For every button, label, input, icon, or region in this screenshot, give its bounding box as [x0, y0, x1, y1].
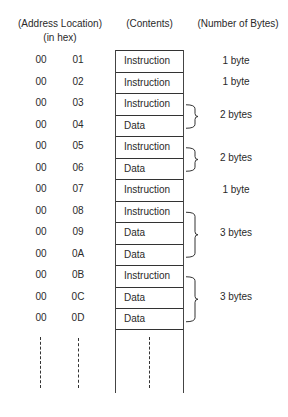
memory-cell: Instruction [116, 136, 183, 158]
address-low-byte: 07 [63, 183, 93, 194]
address-high-byte: 00 [26, 140, 56, 151]
memory-cell: Instruction [116, 265, 183, 287]
memory-cell: Data [116, 158, 183, 180]
memory-cell: Data [116, 115, 183, 137]
contents-continuation-line [149, 337, 150, 388]
byte-count-label: 1 byte [196, 55, 276, 66]
address-low-byte: 0A [63, 248, 93, 259]
address-high-byte: 00 [26, 119, 56, 130]
byte-count-label: 2 bytes [196, 152, 276, 163]
address-high-byte: 00 [26, 226, 56, 237]
address-high-byte: 00 [26, 248, 56, 259]
byte-count-label: 1 byte [196, 184, 276, 195]
memory-cell: Instruction [116, 72, 183, 94]
memory-cell: Data [116, 222, 183, 244]
address-low-byte: 02 [63, 76, 93, 87]
memory-cell: Data [116, 308, 183, 330]
address-header: (Address Location) [10, 18, 110, 29]
memory-cell: Instruction [116, 179, 183, 201]
memory-cell: Instruction [116, 201, 183, 223]
byte-count-label: 3 bytes [196, 227, 276, 238]
address-high-byte: 00 [26, 76, 56, 87]
address-low-byte: 05 [63, 140, 93, 151]
address-high-byte: 00 [26, 162, 56, 173]
byte-count-label: 2 bytes [196, 109, 276, 120]
address-high-byte: 00 [26, 97, 56, 108]
address-low-byte: 04 [63, 119, 93, 130]
address-high-byte: 00 [26, 291, 56, 302]
address-low-byte: 0B [63, 269, 93, 280]
address-low-byte: 01 [63, 54, 93, 65]
contents-header: (Contents) [115, 18, 184, 29]
address-high-byte: 00 [26, 54, 56, 65]
byte-count-label: 1 byte [196, 76, 276, 87]
address-high-byte: 00 [26, 312, 56, 323]
address-high-byte: 00 [26, 269, 56, 280]
address-low-byte: 09 [63, 226, 93, 237]
address-low-byte: 06 [63, 162, 93, 173]
address-low-byte: 08 [63, 205, 93, 216]
address-high-byte: 00 [26, 183, 56, 194]
address-high-byte: 00 [26, 205, 56, 216]
memory-cell: Instruction [116, 50, 183, 72]
address-lo-continuation-line [78, 338, 79, 388]
address-subheader: (in hex) [10, 32, 110, 43]
address-low-byte: 03 [63, 97, 93, 108]
bytes-header: (Number of Bytes) [190, 18, 286, 29]
address-low-byte: 0D [63, 312, 93, 323]
address-low-byte: 0C [63, 291, 93, 302]
memory-cell: Data [116, 287, 183, 309]
byte-count-label: 3 bytes [196, 291, 276, 302]
address-hi-continuation-line [40, 337, 41, 388]
memory-cell: Instruction [116, 93, 183, 115]
memory-cell: Data [116, 244, 183, 266]
